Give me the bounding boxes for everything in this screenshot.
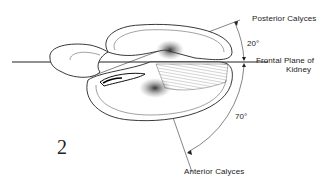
frontal-plane-label: Frontal Plane of: [256, 56, 314, 65]
posterior-calyces-label: Posterior Calyces: [252, 14, 316, 23]
angle-20-label: 20°: [247, 39, 259, 48]
angle-arc-20: [235, 23, 244, 60]
kidney-diagram: [0, 0, 332, 182]
left-lobe: [50, 44, 108, 77]
anterior-calyces-label: Anterior Calyces: [184, 167, 244, 176]
frontal-plane-label-line2: Kidney: [286, 65, 311, 74]
angle-70-label: 70°: [235, 112, 247, 121]
anterior-calyx-fuzz: [139, 78, 171, 98]
posterior-calyx-fuzz: [156, 40, 184, 60]
figure-number: 2: [57, 136, 67, 159]
